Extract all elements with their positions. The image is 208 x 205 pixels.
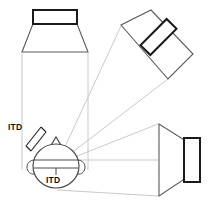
side-speaker bbox=[159, 124, 200, 196]
diagonal-speaker bbox=[121, 10, 193, 79]
speaker-head-itd-diagram: ITD ITD bbox=[0, 0, 208, 205]
itd-left-label: ITD bbox=[8, 122, 22, 132]
itd-bottom-label: ITD bbox=[46, 175, 60, 185]
side-speaker-magnet bbox=[184, 138, 200, 182]
diagram-canvas: ITD ITD bbox=[0, 0, 208, 205]
front-speaker bbox=[22, 10, 88, 52]
front-speaker-magnet bbox=[33, 10, 77, 24]
side-speaker-cone bbox=[159, 124, 186, 196]
side-speaker-beam-bottom bbox=[57, 190, 158, 196]
